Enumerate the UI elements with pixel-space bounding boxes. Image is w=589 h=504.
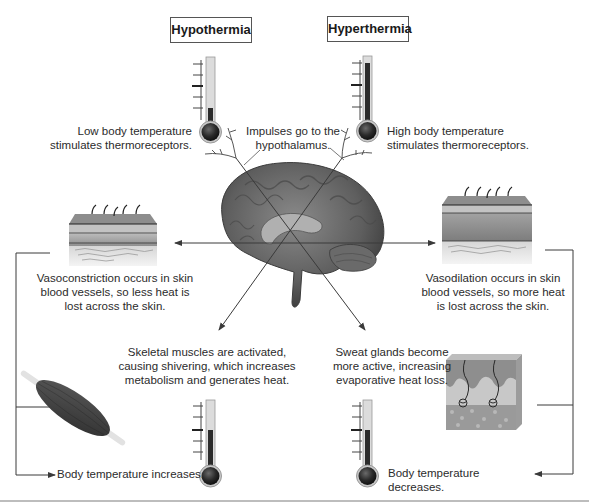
thermometer-hypothermia-start — [192, 57, 222, 143]
brain-icon — [222, 163, 384, 308]
bottom-divider — [0, 500, 589, 502]
stimulus-high-label: High body temperature stimulates thermor… — [387, 124, 547, 152]
diagram-graphics — [0, 0, 589, 504]
thermometer-hyperthermia-start — [351, 56, 379, 142]
stimulus-low-line2: stimulates thermoreceptors. — [40, 138, 192, 152]
shivering-line1: Skeletal muscles are activated, — [112, 345, 302, 359]
vasodilation-label: Vasodilation occurs in skin blood vessel… — [413, 271, 573, 313]
vasoconstriction-line2: blood vessels, so less heat is — [30, 285, 200, 299]
stimulus-high-line2: stimulates thermoreceptors. — [387, 138, 547, 152]
vasodilation-line1: Vasodilation occurs in skin — [413, 271, 573, 285]
outcome-increase-label: Body temperature increases. — [57, 467, 207, 481]
vasoconstriction-line1: Vasoconstriction occurs in skin — [30, 271, 200, 285]
sweat-glands-line1: Sweat glands become — [322, 345, 462, 359]
outcome-decrease-label: Body temperature decreases. — [388, 466, 538, 494]
thermometer-hyperthermia-end — [351, 400, 379, 487]
vasodilation-line2: blood vessels, so more heat — [413, 285, 573, 299]
stimulus-low-label: Low body temperature stimulates thermore… — [40, 124, 192, 152]
vasoconstriction-line3: lost across the skin. — [30, 299, 200, 313]
sweat-glands-label: Sweat glands become more active, increas… — [322, 345, 462, 387]
skin-vasoconstriction-icon — [69, 205, 157, 266]
shivering-label: Skeletal muscles are activated, causing … — [112, 345, 302, 387]
title-hypothermia: Hypothermia — [170, 17, 252, 43]
impulses-line2: hypothalamus. — [238, 138, 348, 152]
shivering-line3: metabolism and generates heat. — [112, 373, 302, 387]
stimulus-low-line1: Low body temperature — [40, 124, 192, 138]
sweat-glands-line2: more active, increasing — [322, 359, 462, 373]
vasoconstriction-label: Vasoconstriction occurs in skin blood ve… — [30, 271, 200, 313]
shivering-line2: causing shivering, which increases — [112, 359, 302, 373]
impulses-line1: Impulses go to the — [238, 124, 348, 138]
vasodilation-line3: is lost across the skin. — [413, 299, 573, 313]
title-hyperthermia: Hyperthermia — [327, 16, 409, 42]
skin-vasodilation-icon — [442, 187, 532, 264]
sweat-glands-line3: evaporative heat loss. — [322, 373, 462, 387]
impulses-label: Impulses go to the hypothalamus. — [238, 124, 348, 152]
stimulus-high-line1: High body temperature — [387, 124, 547, 138]
